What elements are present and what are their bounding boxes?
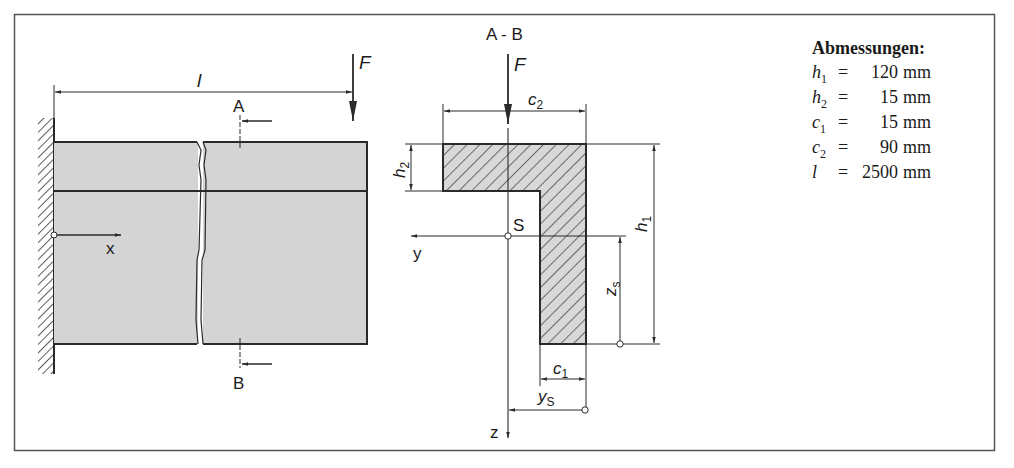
centroid-label: S [513,216,524,235]
dimensions-legend: Abmessungen: h1 = 120 mm h2 = 15 mm c1 =… [812,38,931,188]
side-view: l F A B x [38,52,372,393]
section-title: A - B [486,25,523,44]
l-profile [443,144,586,344]
dimension-row-l: l = 2500 mm [812,163,931,188]
c2-label: c2 [528,90,544,112]
dim-symbol: h [812,87,821,107]
origin-point [51,232,57,238]
beam-left [54,142,198,344]
centroid-point [505,233,511,239]
section-label-a: A [233,97,245,116]
z-axis-label: z [490,423,499,442]
zs-label: zs [601,282,623,298]
section-label-b: B [233,374,244,393]
dim-unit: mm [898,138,931,163]
dim-equals: = [838,88,852,113]
dim-unit: mm [898,88,931,113]
y-axis-label: y [413,244,422,263]
dim-unit: mm [898,63,931,88]
dim-equals: = [838,113,852,138]
dim-equals: = [838,163,852,188]
length-label: l [197,70,202,91]
dim-value: 2500 [852,163,898,188]
dim-value: 90 [852,138,898,163]
dim-equals: = [838,63,852,88]
dimension-row-c2: c2 = 90 mm [812,138,931,163]
dimensions-title: Abmessungen: [812,38,931,59]
dim-symbol: l [812,162,817,182]
dim-symbol: c [812,137,820,157]
dim-symbol: h [812,62,821,82]
dimension-row-h2: h2 = 15 mm [812,88,931,113]
dim-equals: = [838,138,852,163]
dimension-row-c1: c1 = 15 mm [812,113,931,138]
force-label: F [359,52,372,73]
dim-symbol: c [812,112,820,132]
ys-label: yS [537,387,555,409]
x-axis-label: x [106,239,115,258]
dim-unit: mm [898,113,931,138]
h1-label: h1 [632,216,654,232]
beam-right [203,142,367,344]
cross-section: A - B z F y S c2 h2 h1 zs [390,25,660,442]
dim-subscript: 1 [821,72,827,86]
section-force-label: F [514,54,527,75]
dim-subscript: 1 [820,122,826,136]
dim-value: 15 [852,88,898,113]
dim-unit: mm [898,163,931,188]
dimension-row-h1: h1 = 120 mm [812,63,931,88]
dim-value: 15 [852,113,898,138]
dim-subscript: 2 [820,147,826,161]
fixed-wall-hatch [38,118,54,374]
dim-value: 120 [852,63,898,88]
c1-label: c1 [553,359,569,381]
h2-label: h2 [390,162,412,178]
dim-subscript: 2 [821,97,827,111]
